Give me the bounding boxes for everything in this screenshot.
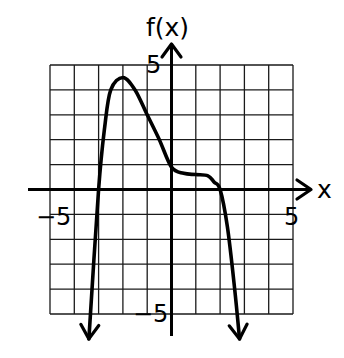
y-tick-min-label: −5 [133, 300, 168, 328]
function-graph: f(x) x −5 5 5 −5 [0, 0, 344, 358]
x-tick-max-label: 5 [284, 203, 299, 231]
y-axis-title: f(x) [146, 13, 189, 42]
x-tick-min-label: −5 [36, 203, 71, 231]
x-axis-title: x [317, 175, 332, 204]
y-tick-max-label: 5 [146, 51, 161, 79]
